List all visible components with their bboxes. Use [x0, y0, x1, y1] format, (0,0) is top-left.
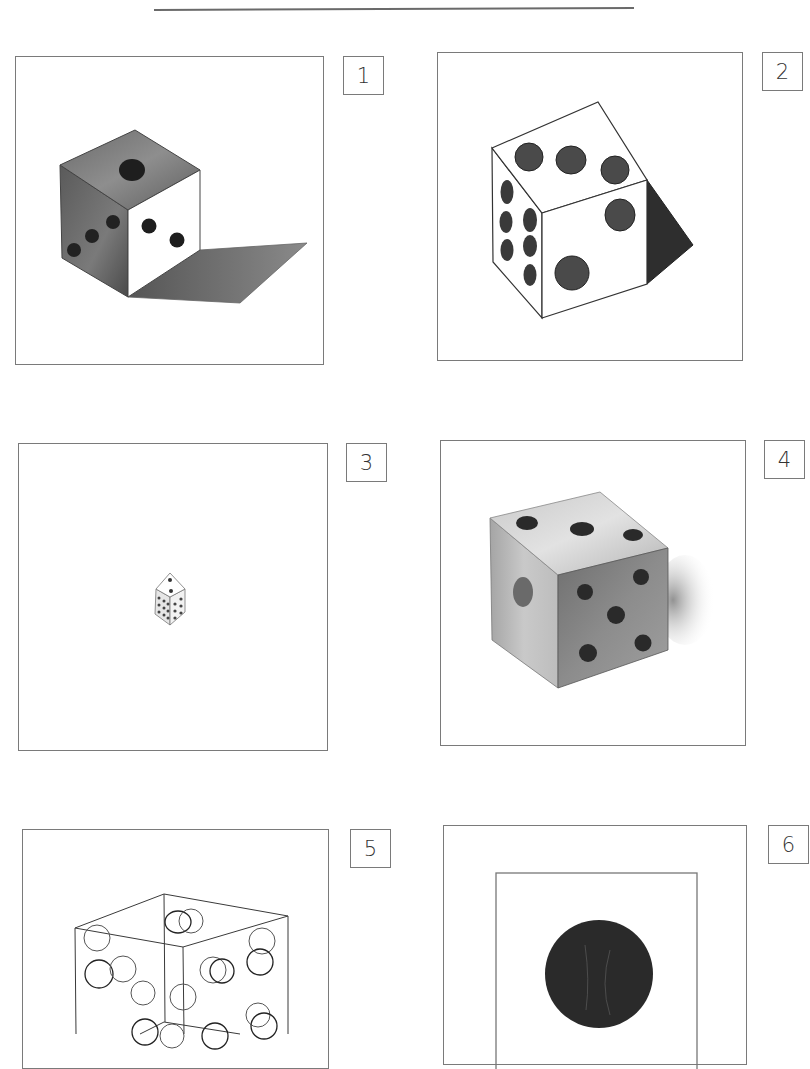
- panel-1-label: 1: [343, 56, 384, 95]
- panel-3-label: 3: [346, 443, 387, 482]
- panel-4-frame[interactable]: [440, 440, 746, 746]
- panel-5-frame[interactable]: [22, 829, 329, 1069]
- panel-1-frame[interactable]: [15, 56, 324, 365]
- panel-5-number: 5: [364, 837, 377, 861]
- panel-6-number: 6: [782, 833, 795, 857]
- panel-2-label: 2: [762, 52, 803, 91]
- panel-1-number: 1: [357, 64, 370, 88]
- panel-3-frame[interactable]: [18, 443, 328, 751]
- panel-2-number: 2: [776, 60, 789, 84]
- panel-4-label: 4: [764, 440, 805, 479]
- panel-6-label: 6: [768, 825, 809, 864]
- panel-3-number: 3: [360, 451, 373, 475]
- panel-5-label: 5: [350, 829, 391, 868]
- panel-4-number: 4: [778, 448, 791, 472]
- top-divider-rule: [154, 7, 634, 11]
- panel-6-frame[interactable]: [443, 825, 747, 1065]
- panel-2-frame[interactable]: [437, 52, 743, 361]
